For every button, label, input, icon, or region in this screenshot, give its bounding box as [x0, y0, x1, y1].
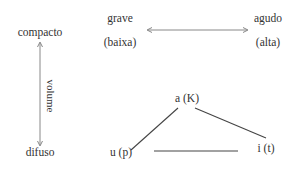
difuso-label: difuso — [26, 147, 55, 159]
volume-axis-label: volume — [45, 80, 56, 113]
alta-label: (alta) — [256, 37, 280, 49]
vowel-triangle — [131, 108, 266, 151]
agudo-label: agudo — [254, 13, 282, 25]
baixa-label: (baixa) — [104, 37, 137, 49]
triangle-right-edge — [195, 108, 266, 138]
compacto-label: compacto — [18, 27, 63, 39]
grave-label: grave — [107, 13, 133, 25]
vertex-a-label: a (K) — [175, 93, 199, 105]
vertex-u-label: u (p) — [110, 147, 132, 159]
vertex-i-label: i (t) — [258, 143, 275, 155]
triangle-left-edge — [131, 108, 178, 150]
vertical-double-arrow — [38, 42, 43, 146]
horizontal-double-arrow — [147, 28, 248, 33]
